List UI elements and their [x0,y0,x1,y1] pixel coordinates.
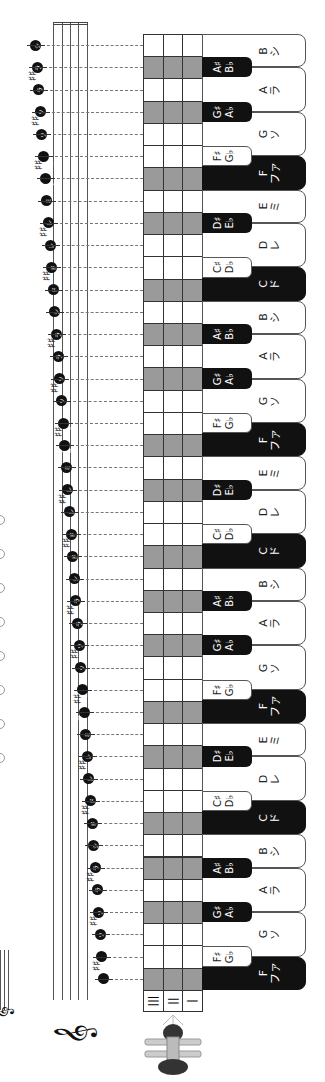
grid-cell[interactable] [163,523,184,546]
grid-cell[interactable] [143,945,164,968]
grid-cell[interactable] [163,123,184,146]
grid-cell[interactable] [143,101,164,124]
grid-cell[interactable] [182,768,203,791]
grid-cell[interactable] [143,834,164,857]
grid-cell[interactable] [182,234,203,257]
grid-cell[interactable] [143,256,164,279]
grid-cell[interactable] [163,367,184,390]
grid-cell[interactable] [182,501,203,524]
grid-cell[interactable] [182,434,203,457]
grid-cell[interactable] [182,834,203,857]
grid-cell[interactable] [143,745,164,768]
grid-cell[interactable] [182,857,203,880]
grid-cell[interactable] [163,701,184,724]
grid-cell[interactable] [182,456,203,479]
grid-cell[interactable] [182,701,203,724]
grid-cell[interactable] [182,523,203,546]
grid-cell[interactable] [182,901,203,924]
grid-cell[interactable] [143,123,164,146]
grid-cell[interactable] [163,345,184,368]
grid-cell[interactable] [143,901,164,924]
grid-cell[interactable] [182,279,203,302]
grid-cell[interactable] [182,101,203,124]
grid-cell[interactable] [163,434,184,457]
grid-cell[interactable] [143,234,164,257]
grid-cell[interactable] [143,301,164,324]
grid-cell[interactable] [163,78,184,101]
grid-cell[interactable] [143,545,164,568]
grid-cell[interactable] [143,568,164,591]
grid-cell[interactable] [163,968,184,991]
grid-cell[interactable] [143,968,164,991]
grid-cell[interactable] [182,612,203,635]
grid-cell[interactable] [182,568,203,591]
grid-cell[interactable] [182,545,203,568]
grid-cell[interactable] [163,923,184,946]
grid-cell[interactable] [163,745,184,768]
grid-cell[interactable] [163,901,184,924]
grid-cell[interactable] [182,145,203,168]
grid-cell[interactable] [182,345,203,368]
grid-cell[interactable] [163,34,184,57]
grid-cell[interactable] [163,279,184,302]
grid-cell[interactable] [182,945,203,968]
grid-cell[interactable] [163,479,184,502]
grid-cell[interactable] [163,590,184,613]
grid-cell[interactable] [163,790,184,813]
grid-cell[interactable] [163,857,184,880]
grid-cell[interactable] [182,212,203,235]
grid-cell[interactable] [182,745,203,768]
grid-cell[interactable] [143,857,164,880]
grid-cell[interactable] [143,190,164,213]
grid-cell[interactable] [182,656,203,679]
grid-cell[interactable] [163,212,184,235]
grid-cell[interactable] [163,412,184,435]
grid-cell[interactable] [143,523,164,546]
grid-cell[interactable] [163,323,184,346]
grid-cell[interactable] [143,145,164,168]
grid-cell[interactable] [163,256,184,279]
grid-cell[interactable] [163,501,184,524]
grid-cell[interactable] [163,190,184,213]
grid-cell[interactable] [163,234,184,257]
grid-cell[interactable] [163,768,184,791]
grid-cell[interactable] [143,501,164,524]
grid-cell[interactable] [182,301,203,324]
grid-cell[interactable] [143,279,164,302]
grid-cell[interactable] [163,834,184,857]
grid-cell[interactable] [182,123,203,146]
grid-cell[interactable] [182,190,203,213]
grid-cell[interactable] [163,679,184,702]
grid-cell[interactable] [163,723,184,746]
grid-cell[interactable] [182,412,203,435]
grid-cell[interactable] [182,923,203,946]
grid-cell[interactable] [163,945,184,968]
grid-cell[interactable] [143,790,164,813]
grid-cell[interactable] [143,56,164,79]
grid-cell[interactable] [163,56,184,79]
grid-cell[interactable] [182,78,203,101]
grid-cell[interactable] [182,634,203,657]
grid-cell[interactable] [163,167,184,190]
grid-cell[interactable] [163,634,184,657]
grid-cell[interactable] [182,790,203,813]
grid-cell[interactable] [182,34,203,57]
grid-cell[interactable] [143,412,164,435]
grid-cell[interactable] [143,634,164,657]
grid-cell[interactable] [143,701,164,724]
grid-cell[interactable] [163,812,184,835]
grid-cell[interactable] [143,167,164,190]
grid-cell[interactable] [163,568,184,591]
grid-cell[interactable] [163,456,184,479]
grid-cell[interactable] [143,590,164,613]
grid-cell[interactable] [163,101,184,124]
grid-cell[interactable] [182,367,203,390]
grid-cell[interactable] [143,345,164,368]
grid-cell[interactable] [143,679,164,702]
grid-cell[interactable] [143,768,164,791]
grid-cell[interactable] [163,879,184,902]
grid-cell[interactable] [182,323,203,346]
grid-cell[interactable] [143,879,164,902]
grid-cell[interactable] [163,390,184,413]
grid-cell[interactable] [163,145,184,168]
